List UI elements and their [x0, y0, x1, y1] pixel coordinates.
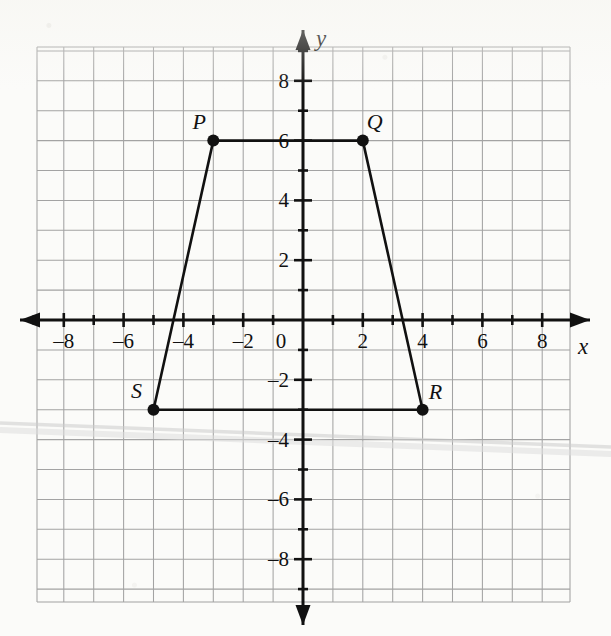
graph-canvas: –8–6–4–224688642–2–4–6–8 y x 0 PQRS — [0, 0, 611, 636]
y-tick-label: 6 — [279, 129, 290, 153]
x-tick-label: 2 — [358, 329, 369, 353]
y-tick-label: –4 — [267, 428, 290, 452]
y-tick-label: 8 — [279, 69, 290, 93]
vertex-label-r: R — [428, 379, 443, 404]
vertex-point-q — [357, 135, 369, 147]
vertex-point-s — [148, 404, 160, 416]
vertex-point-p — [207, 135, 219, 147]
paper-background — [0, 0, 611, 636]
y-tick-label: 4 — [279, 188, 290, 212]
y-axis-label: y — [314, 26, 327, 51]
y-tick-label: –2 — [267, 368, 289, 392]
vertex-point-r — [417, 404, 429, 416]
vertex-label-q: Q — [367, 109, 383, 134]
y-tick-label: –8 — [267, 547, 289, 571]
x-tick-label: –4 — [172, 329, 195, 353]
x-tick-label: 4 — [417, 329, 428, 353]
x-tick-label: –6 — [112, 329, 134, 353]
coordinate-plane-figure: –8–6–4–224688642–2–4–6–8 y x 0 PQRS — [0, 0, 611, 636]
x-tick-label: 6 — [477, 329, 488, 353]
x-axis-label: x — [577, 334, 589, 359]
vertex-label-s: S — [131, 378, 142, 403]
y-tick-label: –6 — [267, 487, 289, 511]
origin-label: 0 — [276, 329, 287, 353]
y-tick-label: 2 — [279, 248, 290, 272]
x-tick-label: –2 — [232, 329, 254, 353]
vertex-label-p: P — [192, 109, 206, 134]
x-tick-label: 8 — [537, 329, 548, 353]
x-tick-label: –8 — [52, 329, 74, 353]
